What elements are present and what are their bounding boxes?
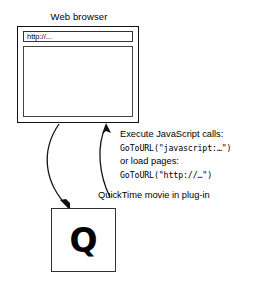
url-text: http://...: [27, 32, 52, 42]
callout-line-1: Execute JavaScript calls:: [120, 128, 255, 142]
browser-window-title: Web browser: [17, 11, 141, 23]
callout-line-4: GoToURL("http://…"): [120, 169, 255, 183]
callout-text-block: Execute JavaScript calls: GoToURL("javas…: [120, 128, 255, 182]
browser-content-pane: [23, 46, 133, 117]
quicktime-q-icon: Q: [52, 209, 115, 271]
callout-line-2: GoToURL("javascript:…"): [120, 142, 255, 156]
arrowhead-to-browser-icon: [102, 123, 111, 134]
arrow-browser-to-plugin-icon: [47, 124, 69, 208]
arrow-plugin-to-browser-icon: [100, 126, 110, 197]
url-address-bar[interactable]: http://...: [23, 31, 133, 42]
diagram-canvas: Web browser http://... Execute JavaScrip…: [0, 0, 255, 283]
quicktime-plugin-box: Q: [51, 208, 116, 272]
callout-line-3: or load pages:: [120, 155, 255, 169]
browser-window: http://...: [17, 26, 139, 123]
plugin-caption: QuickTime movie in plug-in: [98, 189, 210, 202]
